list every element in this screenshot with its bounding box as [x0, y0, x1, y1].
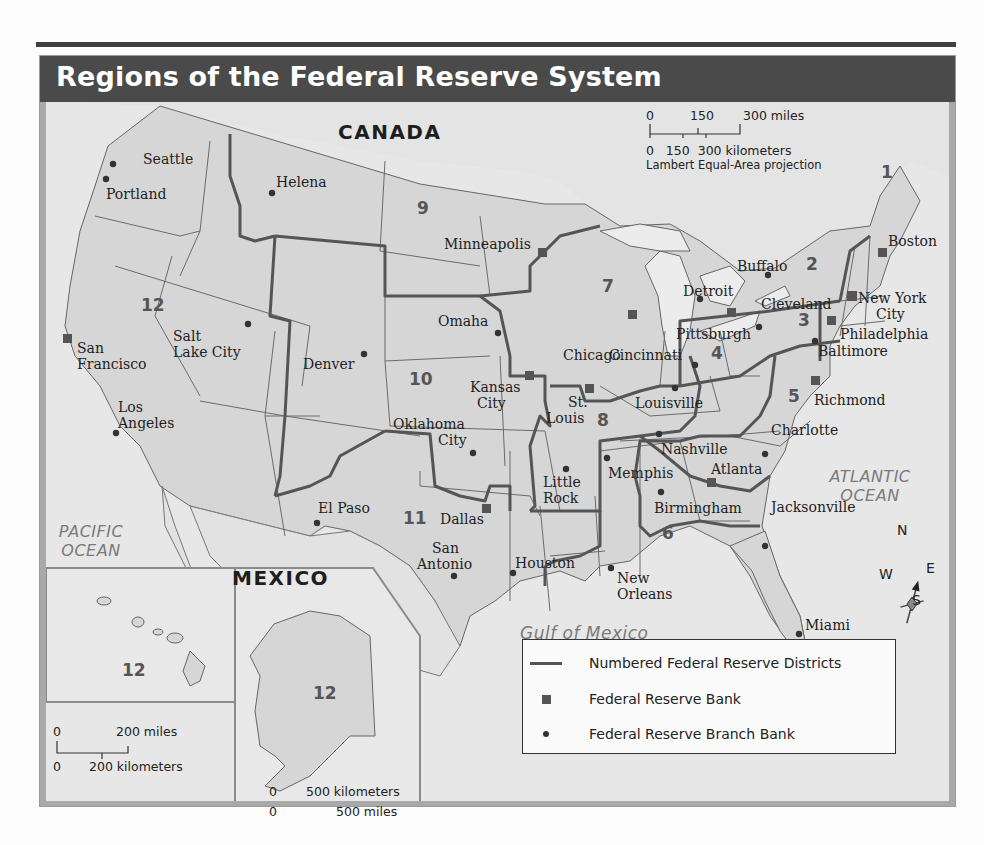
alaska-scale-miles: 500 miles: [336, 804, 397, 819]
scale-projection: Lambert Equal-Area projection: [646, 158, 821, 172]
city-san-francisco: San: [77, 340, 104, 356]
label-mexico: MEXICO: [232, 566, 329, 590]
city-miami: Miami: [805, 617, 850, 633]
hawaii-scale-km: 200 kilometers: [89, 759, 183, 774]
map-frame: Regions of the Federal Reserve System: [39, 55, 956, 807]
city-el-paso: El Paso: [318, 500, 370, 516]
city-new-orleans: New: [617, 570, 650, 586]
scale-miles-150: 150: [690, 108, 714, 123]
city-atlanta: Atlanta: [711, 461, 762, 477]
scale-kilometers: 0 150 300 kilometers: [646, 143, 791, 158]
city-los-angeles: Los: [118, 399, 143, 415]
city-nashville: Nashville: [661, 441, 727, 457]
city-san-antonio: San: [432, 540, 459, 556]
district-11: 11: [403, 508, 427, 528]
hawaii-inset: [46, 568, 235, 702]
city-cincinnati: Cincinnati: [609, 347, 682, 363]
city-detroit: Detroit: [683, 283, 733, 299]
district-12: 12: [141, 295, 165, 315]
district-2: 2: [806, 254, 818, 274]
city-oklahoma-city: Oklahoma: [393, 416, 465, 432]
frame-right-border: [949, 102, 955, 806]
district-6: 6: [662, 523, 674, 543]
alaska-scale-km-0: 0: [269, 784, 277, 799]
compass-s: S: [912, 592, 921, 608]
city-salt-lake-2: Lake City: [173, 344, 241, 360]
city-omaha: Omaha: [438, 313, 488, 329]
city-richmond: Richmond: [814, 392, 886, 408]
city-st-louis: St.: [568, 394, 588, 410]
compass-n: N: [897, 522, 907, 538]
label-pacific-ocean: PACIFIC OCEAN: [48, 522, 134, 560]
city-louisville: Louisville: [635, 395, 703, 411]
city-salt-lake: Salt: [173, 328, 201, 344]
scale-miles-0: 0: [646, 108, 654, 123]
district-3: 3: [798, 310, 810, 330]
city-pittsburgh: Pittsburgh: [676, 326, 751, 342]
city-dallas: Dallas: [440, 511, 484, 527]
city-buffalo: Buffalo: [737, 258, 788, 274]
label-canada: CANADA: [338, 120, 441, 144]
legend-row-bank: Federal Reserve Bank: [523, 687, 741, 711]
district-8: 8: [597, 410, 609, 430]
district-9: 9: [417, 198, 429, 218]
legend-label-districts: Numbered Federal Reserve Districts: [569, 655, 841, 671]
legend-label-bank: Federal Reserve Bank: [569, 691, 741, 707]
city-charlotte: Charlotte: [771, 422, 838, 438]
hawaii-scale-miles-0: 0: [53, 724, 61, 739]
frame-left-border: [40, 102, 46, 806]
city-philadelphia: Philadelphia: [840, 326, 928, 342]
city-little-rock: Little: [543, 474, 581, 490]
city-san-antonio-2: Antonio: [417, 556, 472, 572]
legend-row-districts: Numbered Federal Reserve Districts: [523, 651, 841, 675]
city-houston: Houston: [515, 555, 575, 571]
district-12-alaska: 12: [313, 683, 337, 703]
frame-bottom-border: [40, 801, 955, 806]
city-kansas-city: Kansas: [470, 379, 521, 395]
city-jacksonville: Jacksonville: [771, 499, 856, 515]
city-boston: Boston: [888, 233, 937, 249]
city-cleveland: Cleveland: [761, 296, 831, 312]
alaska-scale-km: 500 kilometers: [306, 784, 400, 799]
city-oklahoma-city-2: City: [438, 432, 467, 448]
top-rule: [36, 42, 956, 47]
city-san-francisco-2: Francisco: [77, 356, 147, 372]
city-helena: Helena: [276, 174, 327, 190]
district-line-icon: [530, 662, 562, 665]
district-4: 4: [711, 343, 723, 363]
compass-e: E: [926, 560, 935, 576]
map-legend: Numbered Federal Reserve Districts Feder…: [522, 639, 896, 754]
district-10: 10: [409, 369, 433, 389]
city-denver: Denver: [303, 356, 354, 372]
legend-label-branch: Federal Reserve Branch Bank: [569, 726, 795, 742]
city-seattle: Seattle: [143, 151, 193, 167]
compass-w: W: [879, 566, 893, 582]
city-new-york-2: City: [876, 306, 905, 322]
city-baltimore: Baltimore: [818, 343, 888, 359]
district-5: 5: [788, 386, 800, 406]
alaska-scale-miles-0: 0: [269, 804, 277, 819]
city-portland: Portland: [106, 186, 166, 202]
scale-miles-300: 300 miles: [743, 108, 804, 123]
district-12-hawaii: 12: [122, 660, 146, 680]
city-minneapolis: Minneapolis: [444, 236, 531, 252]
hawaii-scale-km-0: 0: [53, 759, 61, 774]
city-birmingham: Birmingham: [654, 500, 742, 516]
city-memphis: Memphis: [608, 465, 674, 481]
district-7: 7: [602, 276, 614, 296]
city-los-angeles-2: Angeles: [118, 415, 174, 431]
city-new-york: New York: [858, 290, 927, 306]
city-new-orleans-2: Orleans: [617, 586, 672, 602]
dot-branch-icon: [543, 731, 549, 737]
city-kansas-city-2: City: [477, 395, 506, 411]
city-st-louis-2: Louis: [546, 410, 584, 426]
hawaii-scale-miles: 200 miles: [116, 724, 177, 739]
square-bank-icon: [542, 695, 551, 704]
district-1: 1: [881, 162, 893, 182]
city-little-rock-2: Rock: [543, 490, 578, 506]
legend-row-branch: Federal Reserve Branch Bank: [523, 722, 795, 746]
